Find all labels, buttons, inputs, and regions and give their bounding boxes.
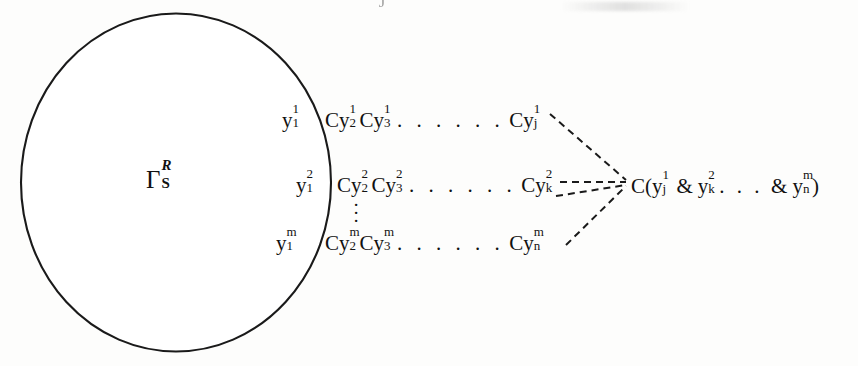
conclusion-expression: C(y1j&y2k. . .&ymn): [631, 172, 819, 197]
conclusion-amp-1: &: [677, 174, 693, 198]
row-2-y-label: y21: [296, 171, 316, 196]
row-1-y-lead: y: [282, 108, 293, 132]
row-1-term-1: Cy12: [325, 106, 359, 131]
row-3-y-label: ym1: [276, 229, 296, 254]
row-3-y-sub: 1: [287, 239, 294, 252]
row-1-term-2-sub: 3: [384, 116, 391, 129]
row-3-last-term-sub: n: [534, 239, 541, 252]
row-2-term-2-sub: 3: [396, 181, 403, 194]
row-2-term-2-lead: Cy: [372, 173, 397, 197]
region-circle: [19, 12, 333, 353]
row-3-term-2-sup: m: [384, 225, 394, 238]
row-2-term-2-sup: 2: [396, 167, 403, 180]
row-2-term-1-sub: 2: [362, 181, 369, 194]
row-1-last-term-lead: Cy: [509, 108, 534, 132]
row-2-last-term-lead: Cy: [521, 173, 546, 197]
scan-smudge: [560, 2, 690, 11]
conclusion-operand-2: y2k: [698, 172, 718, 197]
row-3-term-2-lead: Cy: [360, 231, 385, 255]
row-1-term-2-lead: Cy: [360, 108, 385, 132]
row-2-last-term-sub: k: [546, 181, 553, 194]
conclusion-amp-2: &: [771, 174, 787, 198]
row-2-ellipsis: . . . . . .: [409, 173, 516, 197]
row-2-y-lead: y: [296, 173, 307, 197]
row-2-last-term: Cy2k: [521, 171, 555, 196]
conclusion-operand-1-lead: y: [652, 174, 663, 198]
conclusion-ellipsis: . . .: [719, 174, 763, 198]
row-1-y-sup: 1: [293, 102, 300, 115]
conclusion-operand-1-sub: j: [663, 182, 667, 195]
row-1-term-1-sup: 1: [350, 102, 357, 115]
conclusion-operand-3: ymn: [792, 172, 812, 197]
row-3-y-symbol: ym1: [276, 229, 296, 254]
conclusion-operand-3-sub: n: [803, 182, 810, 195]
row-2-y-sub: 1: [307, 181, 314, 194]
figure-canvas: ˉJ ΓRS y11 Cy12Cy13. . . . . .Cy1j y21 C…: [0, 0, 858, 366]
row-1-term-2: Cy13: [360, 106, 394, 131]
connector-row-3: [566, 186, 626, 245]
row-1-term-1-lead: Cy: [325, 108, 350, 132]
vertical-ellipsis: ...: [352, 196, 360, 220]
row-1-term-1-sub: 2: [350, 116, 357, 129]
row-3-y-lead: y: [276, 231, 287, 255]
conclusion-operand-2-sup: 2: [708, 168, 715, 181]
conclusion-operand-1: y1j: [652, 172, 672, 197]
conclusion-operand-3-lead: y: [792, 174, 803, 198]
chain-row-3: Cym2Cym3. . . . . .Cymn: [325, 229, 544, 254]
row-1-y-label: y11: [282, 106, 302, 131]
connector-row-3-alt: [556, 185, 626, 196]
row-3-last-term-sup: m: [534, 225, 544, 238]
row-2-last-term-sup: 2: [546, 167, 553, 180]
row-3-term-1-lead: Cy: [325, 231, 350, 255]
region-label: ΓRS: [146, 163, 174, 192]
conclusion-operand-2-lead: y: [698, 174, 709, 198]
row-1-last-term-sup: 1: [534, 102, 541, 115]
row-1-y-sub: 1: [293, 116, 300, 129]
row-2-y-symbol: y21: [296, 171, 316, 196]
row-3-ellipsis: . . . . . .: [397, 231, 504, 255]
conclusion-prefix: C(: [631, 174, 652, 198]
row-1-last-term-sub: j: [534, 116, 538, 129]
region-label-scripts: RS: [160, 163, 174, 188]
row-3-term-2-sub: 3: [384, 239, 391, 252]
row-3-term-2: Cym3: [360, 229, 394, 254]
row-3-term-1-sub: 2: [350, 239, 357, 252]
row-1-ellipsis: . . . . . .: [397, 108, 504, 132]
row-3-term-1-sup: m: [350, 225, 360, 238]
region-label-base: Γ: [146, 166, 160, 193]
scan-artifact-text: ˉJ: [372, 0, 386, 12]
row-2-term-2: Cy23: [372, 171, 406, 196]
conclusion-operand-2-sub: k: [708, 182, 715, 195]
region-label-subscript: S: [161, 176, 169, 191]
row-2-y-sup: 2: [307, 167, 314, 180]
row-1-y-symbol: y11: [282, 106, 302, 131]
connector-row-1: [550, 114, 626, 180]
row-3-last-term: Cymn: [509, 229, 543, 254]
row-3-term-1: Cym2: [325, 229, 359, 254]
chain-row-1: Cy12Cy13. . . . . .Cy1j: [325, 106, 544, 131]
conclusion-operand-1-sup: 1: [663, 168, 670, 181]
row-1-term-2-sup: 1: [384, 102, 391, 115]
row-3-last-term-lead: Cy: [509, 231, 534, 255]
row-3-y-sup: m: [287, 225, 297, 238]
conclusion-operand-3-sup: m: [803, 168, 813, 181]
chain-row-2: Cy22Cy23. . . . . .Cy2k: [337, 171, 556, 196]
row-1-last-term: Cy1j: [509, 106, 543, 131]
row-2-term-1-sup: 2: [362, 167, 369, 180]
region-label-superscript: R: [161, 158, 171, 173]
